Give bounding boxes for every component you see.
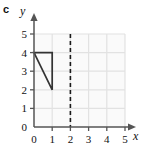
y-tick-label-2: 2 — [22, 84, 28, 96]
y-tick-label-4: 4 — [22, 47, 28, 59]
x-tick-label-5: 5 — [122, 133, 128, 145]
x-tick-label-2: 2 — [68, 133, 74, 145]
y-tick-label-3: 3 — [22, 65, 28, 77]
y-tick-label-1: 1 — [22, 102, 28, 114]
x-axis-arrow-icon — [128, 123, 136, 130]
x-tick-label-4: 4 — [104, 133, 110, 145]
x-tick-label-3: 3 — [86, 133, 92, 145]
coordinate-grid-figure: c y x — [0, 0, 147, 157]
plot-canvas: 0 1 2 3 4 5 0 1 2 3 4 5 — [0, 0, 147, 157]
y-tick-label-5: 5 — [22, 28, 28, 40]
y-tick-label-0: 0 — [22, 121, 28, 133]
y-axis-arrow-icon — [30, 13, 37, 21]
x-tick-label-1: 1 — [49, 133, 55, 145]
x-tick-label-0: 0 — [31, 133, 37, 145]
